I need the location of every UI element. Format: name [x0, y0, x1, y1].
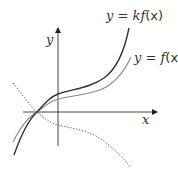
kf-curve-label: y = kf(x)	[105, 8, 163, 23]
x-axis-label: x	[142, 112, 150, 127]
y-axis-label: y	[45, 32, 54, 47]
f-curve-label: y = f(x)	[133, 50, 178, 65]
curve-dotted	[13, 83, 130, 167]
function-transformation-diagram: y x y = kf(x) y = f(x)	[0, 0, 178, 176]
curve-kf	[14, 28, 129, 155]
